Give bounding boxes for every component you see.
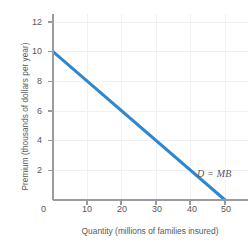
demand-curve-label: D = MB	[197, 168, 232, 179]
horizontal-gridlines	[53, 22, 248, 170]
demand-curve-figure: Premium (thousands of dollars per year) …	[0, 0, 252, 244]
y-axis-ticks	[48, 22, 53, 170]
x-axis-ticks	[87, 200, 225, 205]
plot-area	[0, 0, 252, 244]
x-axis-title: Quantity (millions of families insured)	[52, 226, 248, 236]
